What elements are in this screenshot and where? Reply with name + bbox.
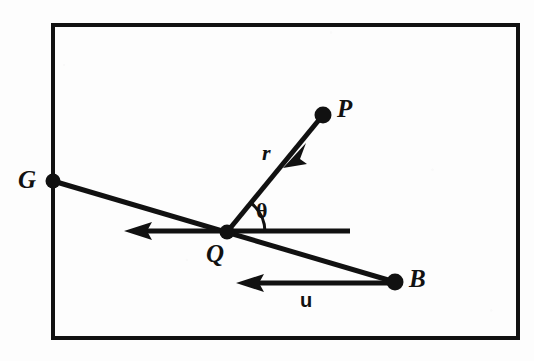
diagram-svg: [0, 0, 534, 361]
vector-label-r: r: [262, 142, 271, 164]
point-label-G: G: [18, 167, 36, 192]
point-dot-P: [315, 107, 332, 124]
point-dot-G: [46, 174, 61, 189]
point-label-P: P: [337, 96, 352, 121]
point-label-Q: Q: [206, 241, 224, 266]
point-label-B: B: [409, 266, 426, 291]
point-dot-Q: [220, 225, 235, 240]
segment-r-p-q: [227, 115, 323, 232]
angle-label-theta: θ: [256, 200, 267, 222]
figure-frame: [53, 25, 518, 338]
vector-label-u: u: [300, 290, 312, 310]
figure-canvas: G Q P B r θ u: [0, 0, 534, 361]
point-dot-B: [387, 274, 404, 291]
